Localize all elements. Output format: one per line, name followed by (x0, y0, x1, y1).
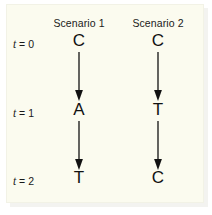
base-scenario2-t2: C (138, 169, 178, 186)
time-label-t1: t = 1 (13, 107, 65, 119)
time-label-t2: t = 2 (13, 175, 65, 187)
base-scenario1-t0: C (59, 32, 99, 49)
column-header-scenario-1: Scenario 1 (34, 17, 124, 29)
column-header-scenario-2: Scenario 2 (113, 17, 203, 29)
time-label-t0-value: = 0 (16, 38, 34, 50)
figure-panel: Scenario 1 Scenario 2 t = 0 t = 1 t = 2 … (6, 4, 204, 203)
base-scenario1-t1: A (59, 101, 99, 118)
arrow-scenario2-t1-to-t2 (151, 121, 165, 171)
arrow-scenario2-t0-to-t1 (151, 52, 165, 102)
time-label-t2-value: = 2 (16, 175, 34, 187)
arrow-scenario1-t1-to-t2 (72, 121, 86, 171)
arrow-scenario1-t0-to-t1 (72, 52, 86, 102)
base-scenario2-t1: T (138, 101, 178, 118)
base-scenario1-t2: T (59, 169, 99, 186)
base-scenario2-t0: C (138, 32, 178, 49)
figure-panel-inner: Scenario 1 Scenario 2 t = 0 t = 1 t = 2 … (7, 5, 203, 202)
scenario-comparison-figure: Scenario 1 Scenario 2 t = 0 t = 1 t = 2 … (0, 0, 212, 215)
time-label-t0: t = 0 (13, 38, 65, 50)
time-label-t1-value: = 1 (16, 107, 34, 119)
